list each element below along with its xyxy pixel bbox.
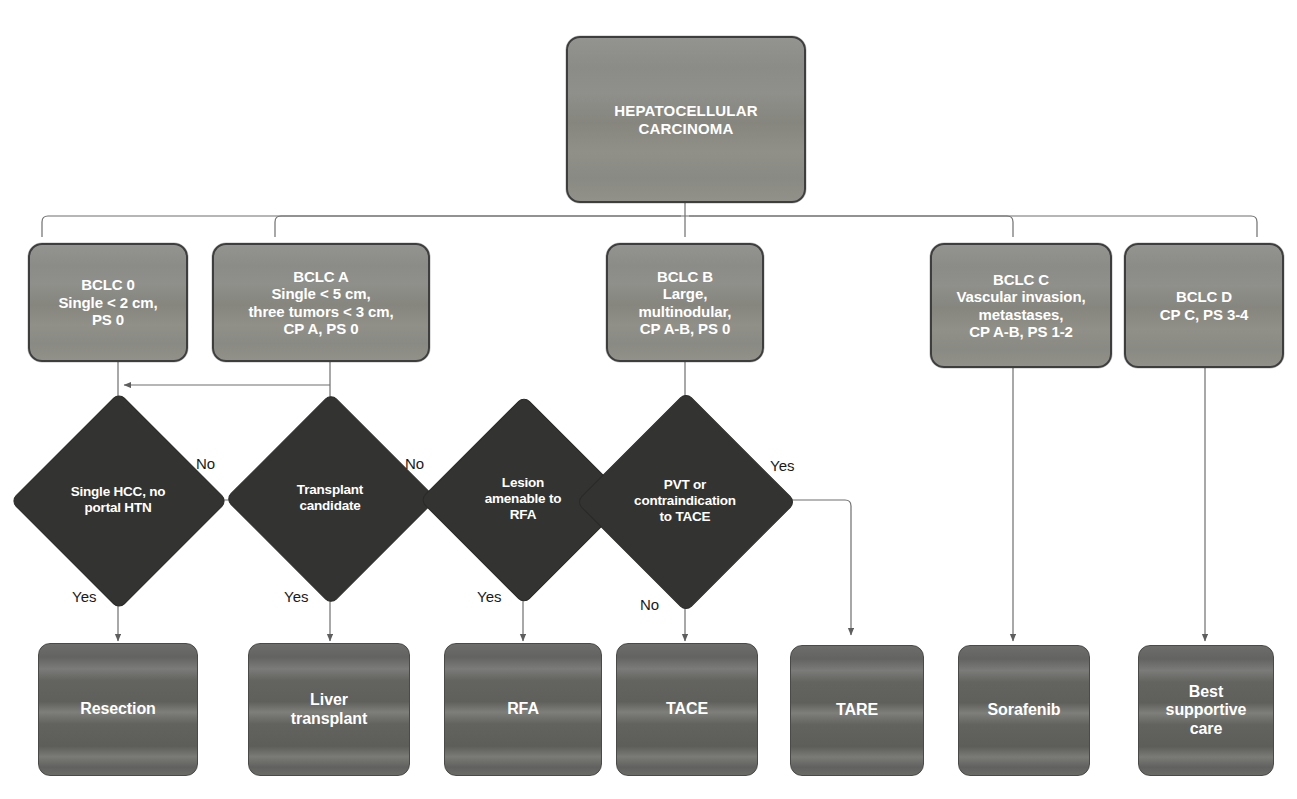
edge-distribution-bus: [42, 216, 1257, 237]
edge-label-no-single-hcc: No: [196, 455, 215, 472]
edge-label-no-pvt: No: [640, 596, 659, 613]
edge-label-yes-transplant: Yes: [284, 588, 308, 605]
node-hepatocellular-carcinoma[interactable]: HEPATOCELLULAR CARCINOMA: [566, 36, 806, 203]
node-decision-pvt[interactable]: PVT or contraindication to TACE: [608, 424, 762, 578]
node-treatment-tace[interactable]: TACE: [616, 643, 758, 776]
decision-label: Transplant candidate: [270, 482, 390, 514]
node-treatment-liver-transplant[interactable]: Liver transplant: [248, 643, 410, 776]
node-decision-transplant[interactable]: Transplant candidate: [256, 424, 404, 572]
node-decision-single-hcc[interactable]: Single HCC, no portal HTN: [42, 424, 194, 576]
node-bclc-c[interactable]: BCLC C Vascular invasion, metastases, CP…: [930, 243, 1112, 368]
edge-label-yes-single-hcc: Yes: [72, 588, 96, 605]
edge-label-no-transplant: No: [405, 455, 424, 472]
node-treatment-best-supportive-care[interactable]: Best supportive care: [1138, 645, 1274, 776]
edge-bus-to-bclc-a: [275, 216, 681, 237]
node-bclc-b[interactable]: BCLC B Large, multinodular, CP A-B, PS 0: [606, 243, 764, 362]
node-bclc-0[interactable]: BCLC 0 Single < 2 cm, PS 0: [28, 243, 188, 362]
edge-bus-to-bclc-c: [689, 216, 1013, 237]
node-treatment-rfa[interactable]: RFA: [444, 643, 602, 776]
node-treatment-sorafenib[interactable]: Sorafenib: [958, 645, 1090, 776]
edge-label-yes-pvt: Yes: [770, 457, 794, 474]
decision-label: Lesion amenable to RFA: [464, 475, 582, 524]
edge-label-yes-rfa: Yes: [477, 588, 501, 605]
node-decision-rfa[interactable]: Lesion amenable to RFA: [450, 426, 596, 572]
node-treatment-tare[interactable]: TARE: [790, 645, 924, 776]
node-bclc-d[interactable]: BCLC D CP C, PS 3-4: [1124, 243, 1284, 368]
flowchart-canvas: HEPATOCELLULAR CARCINOMA BCLC 0 Single <…: [0, 0, 1297, 799]
decision-label: PVT or contraindication to TACE: [608, 477, 762, 526]
node-treatment-resection[interactable]: Resection: [38, 643, 198, 776]
node-bclc-a[interactable]: BCLC A Single < 5 cm, three tumors < 3 c…: [212, 243, 430, 362]
decision-label: Single HCC, no portal HTN: [48, 484, 188, 516]
